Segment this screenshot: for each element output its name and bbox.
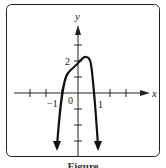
y-tick-label-2: 2: [65, 56, 70, 67]
x-axis-arrow-icon: [140, 90, 150, 96]
x-tick-label-0: 0: [68, 95, 73, 106]
y-axis-arrow-icon: [75, 25, 81, 35]
x-axis-label: x: [151, 87, 157, 99]
graph-figure: x y −1 0 1 2: [0, 0, 166, 168]
x-tick-label-1: 1: [98, 99, 103, 110]
curve-right-arrow-icon: [94, 141, 102, 151]
figure-border: [7, 5, 160, 157]
figure-caption: Figure: [0, 160, 166, 168]
y-axis-label: y: [74, 10, 80, 22]
x-axis: [14, 89, 144, 97]
curve-left-arrow-icon: [53, 141, 61, 151]
x-tick-label-neg1: −1: [47, 98, 58, 109]
